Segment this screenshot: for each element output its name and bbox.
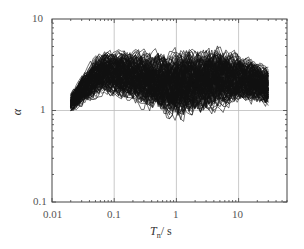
x-tick-label-0.01: 0.01 <box>43 209 62 220</box>
y-tick-label-1: 1 <box>40 104 46 115</box>
x-axis-label-main: T <box>150 224 157 238</box>
x-tick-label-10: 10 <box>232 209 243 220</box>
y-tick-label-10: 10 <box>32 13 43 24</box>
y-tick-label-0.1: 0.1 <box>33 196 47 207</box>
y-axis-label: α <box>11 109 23 115</box>
x-axis-label: Tn/ s <box>150 225 172 240</box>
x-tick-label-1: 1 <box>173 209 179 220</box>
x-tick-label-0.1: 0.1 <box>107 209 121 220</box>
x-axis-label-unit: / s <box>161 224 172 238</box>
